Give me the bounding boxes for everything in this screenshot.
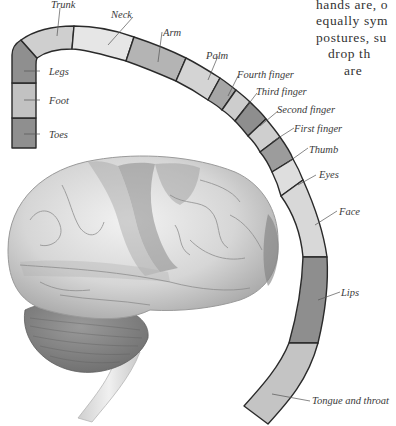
label-thumb: Thumb (309, 144, 338, 155)
body-text-line-1: hands are, o (316, 0, 388, 14)
segment-neck (72, 26, 134, 61)
label-foot: Foot (48, 95, 70, 106)
label-arm: Arm (162, 27, 182, 38)
brain-illustration (8, 156, 279, 422)
label-lips: Lips (340, 287, 359, 298)
label-eyes: Eyes (318, 169, 339, 180)
label-neck: Neck (110, 9, 132, 20)
segment-foot (12, 83, 36, 118)
body-text-line-5: are (344, 63, 362, 80)
segment-face (281, 180, 327, 257)
segment-lips (289, 257, 327, 343)
label-tongue-throat: Tongue and throat (312, 395, 390, 406)
motor-cortex-figure: Trunk Neck Arm Palm Fourth finger Third … (0, 0, 396, 426)
body-text-line-4: drop th (328, 46, 371, 63)
figure-canvas: Trunk Neck Arm Palm Fourth finger Third … (0, 0, 396, 426)
label-second-finger: Second finger (277, 104, 336, 115)
label-trunk: Trunk (51, 0, 76, 10)
label-first-finger: First finger (293, 123, 343, 134)
segment-arm (126, 37, 186, 81)
label-legs: Legs (48, 66, 69, 77)
label-toes: Toes (49, 129, 68, 140)
body-text-line-2: equally sym (316, 13, 388, 30)
body-text-line-3: postures, su (316, 30, 387, 47)
segment-toes (12, 118, 36, 148)
label-face: Face (338, 206, 360, 217)
segment-tongue-throat (244, 343, 318, 424)
label-palm: Palm (205, 50, 229, 61)
label-fourth-finger: Fourth finger (236, 69, 295, 80)
label-third-finger: Third finger (256, 86, 308, 97)
